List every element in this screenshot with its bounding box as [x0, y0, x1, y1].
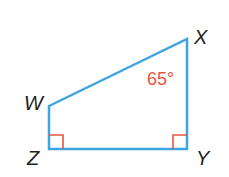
vertex-label-w: W	[24, 92, 45, 114]
vertex-label-z: Z	[26, 147, 40, 169]
vertex-label-y: Y	[196, 147, 211, 169]
quadrilateral-wxyz	[49, 39, 187, 149]
angle-label-x: 65°	[147, 69, 174, 89]
right-angle-mark-z	[49, 135, 63, 149]
quadrilateral-diagram: 65° W X Y Z	[0, 0, 229, 177]
right-angle-mark-y	[173, 135, 187, 149]
vertex-label-x: X	[193, 26, 208, 48]
